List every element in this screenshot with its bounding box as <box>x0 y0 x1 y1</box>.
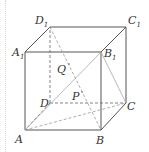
edge-BC <box>101 103 126 130</box>
label-Q: Q <box>57 63 66 76</box>
label-D: D <box>39 97 49 110</box>
label-B: B <box>95 134 104 147</box>
point-P-marker <box>81 91 83 93</box>
label-C1: C1 <box>128 14 141 29</box>
label-B1: B1 <box>103 47 117 62</box>
cube-diagram: D1 C1 A1 B1 Q P D C A B <box>0 0 149 152</box>
label-P: P <box>71 90 80 103</box>
label-A1: A1 <box>11 46 24 61</box>
label-C: C <box>127 100 136 113</box>
edge-D1A1 <box>25 27 50 52</box>
point-Q-marker <box>68 63 70 65</box>
label-A: A <box>14 133 23 146</box>
label-D1: D1 <box>34 14 48 29</box>
